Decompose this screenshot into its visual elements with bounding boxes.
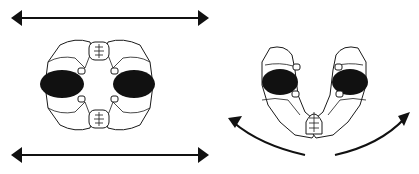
head-right	[113, 70, 155, 98]
diagram-canvas	[0, 0, 419, 174]
double-arrow-bottom-icon	[11, 147, 209, 163]
two-people-facing-figure	[40, 40, 155, 130]
right-panel	[228, 47, 410, 155]
head-left	[40, 70, 84, 98]
left-panel	[11, 10, 209, 163]
double-arrow-top-icon	[11, 10, 209, 26]
